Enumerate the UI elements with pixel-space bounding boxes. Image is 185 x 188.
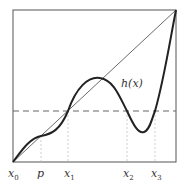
vertical-guides bbox=[41, 111, 155, 162]
curve-label: h(x) bbox=[121, 78, 143, 89]
x3-label: x3 bbox=[151, 168, 162, 182]
x2-label: x2 bbox=[123, 168, 134, 182]
p-label: p bbox=[37, 168, 44, 179]
x0-label: x0 bbox=[8, 168, 19, 182]
diagram-canvas bbox=[0, 0, 185, 188]
x1-label: x1 bbox=[64, 168, 75, 182]
diagonal-line bbox=[13, 10, 176, 162]
